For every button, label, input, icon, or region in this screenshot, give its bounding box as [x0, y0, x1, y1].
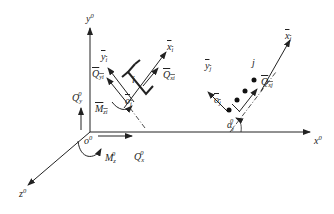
label-mzi: Mzi	[94, 103, 108, 115]
label-global-qx: Qx0	[134, 149, 144, 163]
label-alpha-j: αj0	[227, 117, 234, 131]
element-i	[107, 52, 166, 128]
label-global-mz: Mz0	[104, 150, 116, 164]
label-xj: xj	[284, 30, 291, 42]
label-oj: oj	[214, 94, 221, 106]
label-qyi: Qyi	[92, 68, 104, 80]
global-z-axis	[28, 132, 90, 185]
label-global-y: y0	[85, 12, 94, 24]
label-node-i: i	[132, 74, 135, 85]
label-global-z: z0	[18, 187, 27, 199]
global-mz-arrow	[78, 141, 101, 156]
label-yj: yj	[204, 60, 211, 72]
label-yi: yi	[100, 51, 107, 63]
label-xi: xi	[166, 41, 173, 53]
element-j	[208, 40, 290, 132]
label-origin: o0	[84, 134, 93, 146]
label-node-j: j	[250, 57, 255, 68]
diagram-canvas: y0 x0 z0 o0 Qx0 Qy0 Mz0 yi Qyi Mzi oi i …	[0, 0, 334, 214]
label-global-qy: Qy0	[72, 90, 82, 104]
label-global-x: x0	[313, 134, 322, 146]
label-qxj: Qxj	[261, 76, 273, 88]
label-qxi: Qxi	[163, 69, 175, 81]
label-oi: oi	[125, 95, 132, 107]
